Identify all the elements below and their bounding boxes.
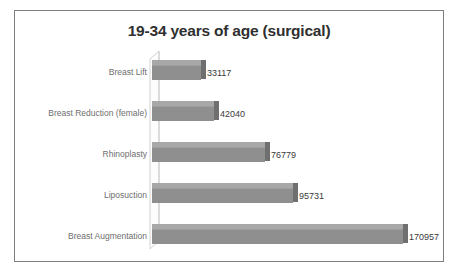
bar-value-label: 42040 (220, 109, 245, 119)
bar-top-face (152, 183, 293, 188)
bar-side-face (265, 142, 270, 161)
bar-front-face (152, 106, 214, 121)
bar-front-face (152, 65, 201, 80)
bar-side-face (214, 101, 219, 120)
bar-value-label: 170957 (409, 232, 439, 242)
bar-top-face (152, 101, 214, 106)
bar-value-label: 76779 (271, 150, 296, 160)
bar (152, 147, 270, 161)
clipped-text-sliver (0, 0, 461, 9)
bar-top-face (152, 142, 265, 147)
bar-value-label: 95731 (299, 191, 324, 201)
bar (152, 188, 298, 202)
bar-side-face (201, 60, 206, 79)
bar-top-face (152, 60, 201, 65)
bar (152, 106, 219, 120)
bar-front-face (152, 229, 403, 244)
bar-front-face (152, 147, 265, 162)
bar-side-face (403, 224, 408, 243)
bars-layer: 33117420407677995731170957 (15, 49, 445, 254)
clipped-text (104, 0, 107, 4)
chart-frame: 19-34 years of age (surgical) Breast Lif… (14, 10, 444, 262)
bar-front-face (152, 188, 293, 203)
bar (152, 229, 408, 243)
bar-top-face (152, 224, 403, 229)
bar (152, 65, 206, 79)
bar-value-label: 33117 (207, 68, 231, 78)
bar-side-face (293, 183, 298, 202)
plot-area: Breast LiftBreast Reduction (female)Rhin… (15, 49, 445, 254)
chart-title: 19-34 years of age (surgical) (15, 22, 443, 40)
